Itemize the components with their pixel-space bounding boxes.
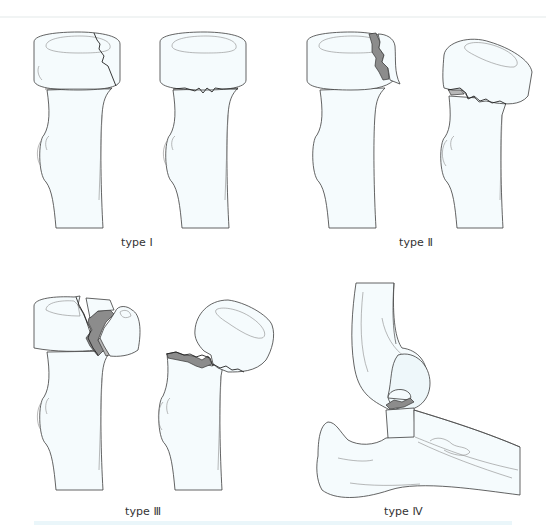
caption-type2: type Ⅱ bbox=[399, 236, 433, 249]
type3-left-bone bbox=[34, 296, 140, 490]
type4-elbow bbox=[317, 283, 520, 498]
caption-type4: type Ⅳ bbox=[384, 505, 423, 518]
caption-type3: type Ⅲ bbox=[125, 505, 161, 518]
type3-right-bone bbox=[158, 300, 273, 490]
type1-right-bone bbox=[160, 32, 246, 228]
type1-left-bone bbox=[34, 32, 120, 228]
type2-left-bone bbox=[307, 32, 400, 228]
fracture-diagram bbox=[0, 0, 546, 531]
bottom-accent-bar bbox=[34, 521, 512, 525]
caption-type1: type Ⅰ bbox=[121, 236, 153, 249]
type2-right-bone bbox=[441, 39, 532, 228]
